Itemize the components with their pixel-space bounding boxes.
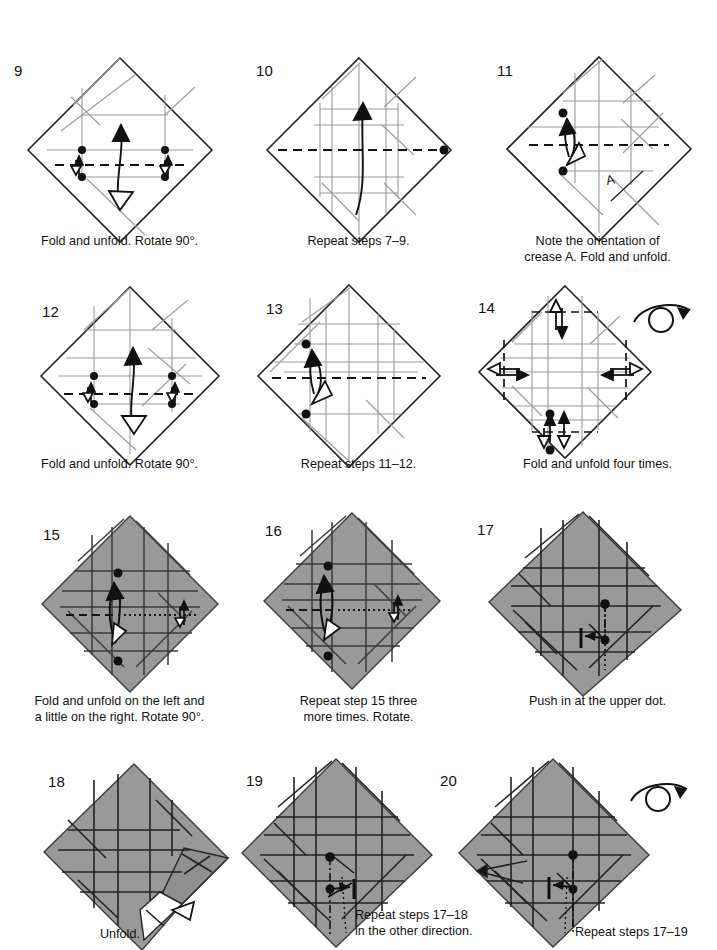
caption-step-20: Repeat steps 17–19 [575,925,717,941]
step-number-15: 15 [43,526,60,543]
caption-step-17: Push in at the upper dot. [478,694,717,710]
caption-step-11: Note the orientation of crease A. Fold a… [478,234,717,265]
step-number-13: 13 [266,300,283,317]
panel-step-10 [264,55,454,245]
step-number-11: 11 [497,62,513,79]
step-number-17: 17 [477,521,494,538]
diagram-step-17 [485,510,685,702]
paper-outline-shaded [264,513,440,689]
turn-over-icon-step-14 [628,296,708,342]
panel-step-15 [40,515,220,695]
diagram-step-10 [264,55,454,245]
step-number-12: 12 [42,303,59,320]
upper-dot [568,850,578,860]
caption-step-12: Fold and unfold. Rotate 90°. [0,457,239,473]
caption-step-14: Fold and unfold four times. [478,457,717,473]
paper-outline-shaded [459,759,649,947]
caption-step-18: Unfold. [100,927,260,943]
upper-dot [600,599,610,609]
panel-step-17 [485,510,685,702]
step-number-20: 20 [440,772,457,789]
reference-dot [440,146,449,155]
diagram-step-16 [262,512,442,692]
diagram-step-12 [38,284,222,468]
step-number-18: 18 [48,773,65,790]
diagram-step-9 [25,55,215,245]
step-number-14: 14 [478,299,495,316]
lower-dot [326,885,335,894]
diagram-step-15 [40,515,220,695]
paper-outline-shaded [42,516,218,692]
step-number-19: 19 [246,772,263,789]
upper-dot [325,852,335,862]
caption-step-9: Fold and unfold. Rotate 90°. [0,234,239,250]
panel-step-11: A [503,53,699,249]
lower-dot [601,636,610,645]
panel-step-12 [38,284,222,468]
panel-step-9 [25,55,215,245]
step-number-10: 10 [256,62,273,79]
lower-dot [569,885,578,894]
caption-step-10: Repeat steps 7–9. [239,234,478,250]
caption-step-16: Repeat step 15 three more times. Rotate. [239,694,478,725]
step-number-9: 9 [14,62,23,79]
turn-over-icon-step-20 [625,775,705,821]
step-number-16: 16 [265,522,282,539]
caption-step-13: Repeat steps 11–12. [239,457,478,473]
caption-step-15: Fold and unfold on the left and a little… [0,694,239,725]
paper-outline-shaded [489,512,681,696]
panel-step-16 [262,512,442,692]
diagram-step-11: A [503,53,699,249]
